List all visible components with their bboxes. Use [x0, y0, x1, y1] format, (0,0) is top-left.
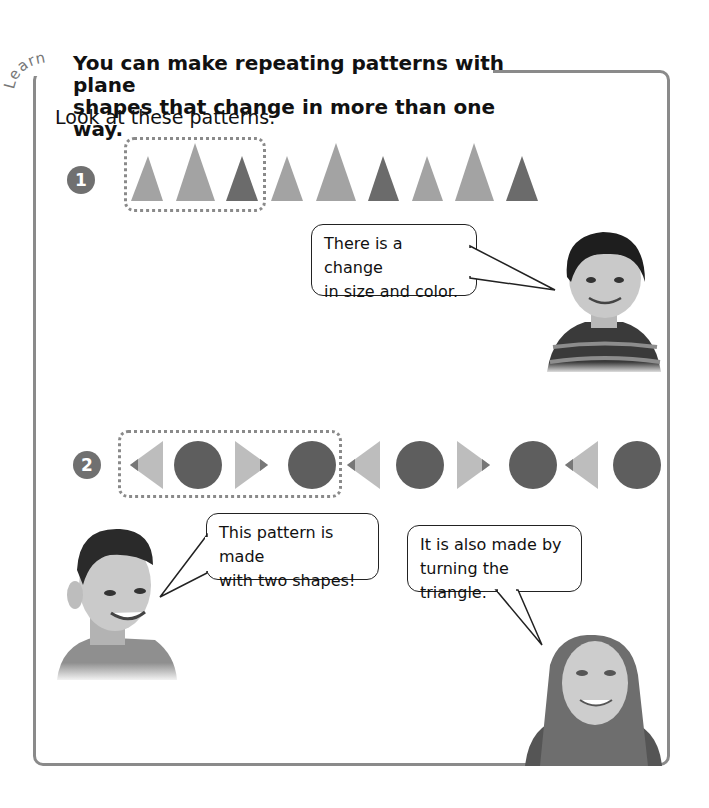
speech-bubble-2: This pattern is made with two shapes! — [206, 513, 379, 580]
triangle-pointing-left — [565, 441, 598, 489]
triangle-small-light — [271, 156, 303, 201]
pattern-2-number: 2 — [81, 455, 93, 475]
circle — [174, 441, 222, 489]
triangle-large-light — [176, 143, 215, 201]
triangle-small-dark — [226, 156, 258, 201]
pattern-1-number-badge: 1 — [67, 166, 95, 194]
headline-line-1: You can make repeating patterns with pla… — [73, 52, 513, 96]
bubble-2-line-1: This pattern is made — [219, 521, 366, 569]
pattern-1-shapes — [120, 140, 560, 210]
triangle-pointing-right — [457, 441, 490, 489]
circle — [396, 441, 444, 489]
smiling-boy-photo — [55, 515, 180, 685]
learn-section-label: Learn — [0, 50, 80, 110]
learn-label-text: Learn — [0, 50, 47, 91]
bubble-2-line-2: with two shapes! — [219, 569, 366, 593]
pattern-2-shapes — [120, 437, 665, 493]
triangle-small-light — [412, 156, 443, 201]
boy-striped-shirt-photo — [545, 222, 663, 378]
triangle-small-dark — [368, 156, 399, 201]
speech-bubble-3: It is also made by turning the triangle. — [407, 525, 582, 592]
circle — [613, 441, 661, 489]
girl-long-hair-photo — [520, 635, 665, 766]
bubble-3-line-1: It is also made by — [420, 533, 569, 557]
triangle-large-light — [316, 143, 356, 201]
circle — [509, 441, 557, 489]
triangle-pointing-left — [130, 441, 163, 489]
bubble-3-line-2: turning the triangle. — [420, 557, 569, 605]
bubble-1-line-2: in size and color. — [324, 280, 464, 304]
circle — [288, 441, 336, 489]
svg-text:Learn: Learn — [0, 50, 47, 91]
intro-text: Look at these patterns. — [55, 106, 275, 128]
speech-bubble-1: There is a change in size and color. — [311, 224, 477, 296]
triangle-small-light — [131, 156, 163, 201]
triangle-pointing-right — [235, 441, 268, 489]
pattern-2-number-badge: 2 — [73, 451, 101, 479]
triangle-large-light — [455, 143, 494, 201]
triangle-pointing-left — [347, 441, 380, 489]
triangle-small-dark — [506, 156, 538, 201]
bubble-1-line-1: There is a change — [324, 232, 464, 280]
pattern-1-number: 1 — [75, 170, 87, 190]
